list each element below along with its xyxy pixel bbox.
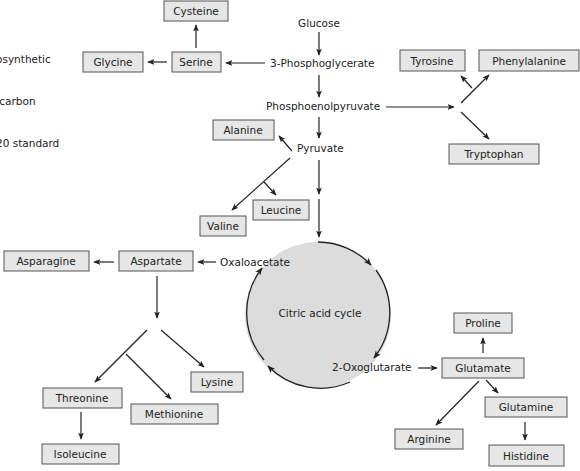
- box-phenylalanine: Phenylalanine: [479, 50, 579, 71]
- cysteine-label: Cysteine: [173, 5, 219, 17]
- arrow-pyruvate-leucine: [264, 182, 276, 195]
- arrow-branch-lysine: [161, 330, 204, 367]
- asparagine-label: Asparagine: [16, 255, 75, 267]
- glutamine-label: Glutamine: [499, 401, 554, 413]
- box-glutamate: Glutamate: [442, 358, 524, 378]
- histidine-label: Histidine: [503, 450, 549, 462]
- box-valine: Valine: [200, 216, 246, 236]
- arrow-branch-tyrosine: [461, 76, 472, 88]
- box-proline: Proline: [454, 313, 512, 333]
- biosynthesis-diagram: Citric acid cycle Glucose 3-Phosphoglyce…: [0, 0, 580, 471]
- proline-label: Proline: [465, 317, 501, 329]
- box-alanine: Alanine: [213, 120, 274, 140]
- box-threonine: Threonine: [43, 388, 122, 408]
- arrow-pyruvate-alanine: [279, 136, 292, 151]
- box-aspartate: Aspartate: [119, 251, 193, 271]
- leucine-label: Leucine: [261, 204, 302, 216]
- arrow-branch-methionine: [126, 354, 171, 399]
- box-histidine: Histidine: [489, 445, 564, 466]
- aspartate-label: Aspartate: [130, 255, 181, 267]
- box-lysine: Lysine: [191, 372, 243, 392]
- arginine-label: Arginine: [407, 433, 451, 445]
- box-asparagine: Asparagine: [4, 251, 89, 271]
- threonine-label: Threonine: [55, 392, 109, 404]
- glycine-label: Glycine: [93, 56, 132, 68]
- alanine-label: Alanine: [223, 124, 262, 136]
- box-isoleucine: Isoleucine: [42, 444, 119, 464]
- arrow-glutamate-arginine: [436, 381, 479, 425]
- box-cysteine: Cysteine: [164, 1, 228, 21]
- glucose-label: Glucose: [298, 17, 340, 29]
- isoleucine-label: Isoleucine: [54, 448, 107, 460]
- phosphoglycerate-label: 3-Phosphoglycerate: [270, 57, 374, 69]
- box-tryptophan: Tryptophan: [449, 144, 539, 164]
- phenylalanine-label: Phenylalanine: [492, 55, 566, 67]
- box-leucine: Leucine: [253, 200, 309, 220]
- tyrosine-label: Tyrosine: [409, 55, 453, 67]
- oxoglutarate-label: 2-Oxoglutarate: [332, 361, 411, 373]
- box-glutamine: Glutamine: [485, 397, 567, 417]
- pep-label: Phosphoenolpyruvate: [266, 100, 380, 112]
- methionine-label: Methionine: [145, 408, 203, 420]
- pyruvate-label: Pyruvate: [297, 142, 344, 154]
- cycle-label: Citric acid cycle: [279, 307, 362, 319]
- serine-label: Serine: [179, 56, 212, 68]
- box-glycine: Glycine: [83, 52, 143, 72]
- box-tyrosine: Tyrosine: [400, 50, 465, 71]
- arrow-branch-threonine: [95, 330, 147, 382]
- lysine-label: Lysine: [201, 376, 234, 388]
- tryptophan-label: Tryptophan: [463, 148, 523, 160]
- box-arginine: Arginine: [395, 429, 463, 449]
- arrow-glutamate-glutamine: [486, 380, 498, 393]
- box-serine: Serine: [172, 52, 221, 72]
- glutamate-label: Glutamate: [455, 362, 511, 374]
- oxaloacetate-label: Oxaloacetate: [220, 256, 290, 268]
- valine-label: Valine: [207, 220, 239, 232]
- arrow-branch-phenylalanine: [461, 75, 489, 103]
- box-methionine: Methionine: [131, 404, 218, 424]
- arrow-branch-tryptophan: [461, 112, 489, 139]
